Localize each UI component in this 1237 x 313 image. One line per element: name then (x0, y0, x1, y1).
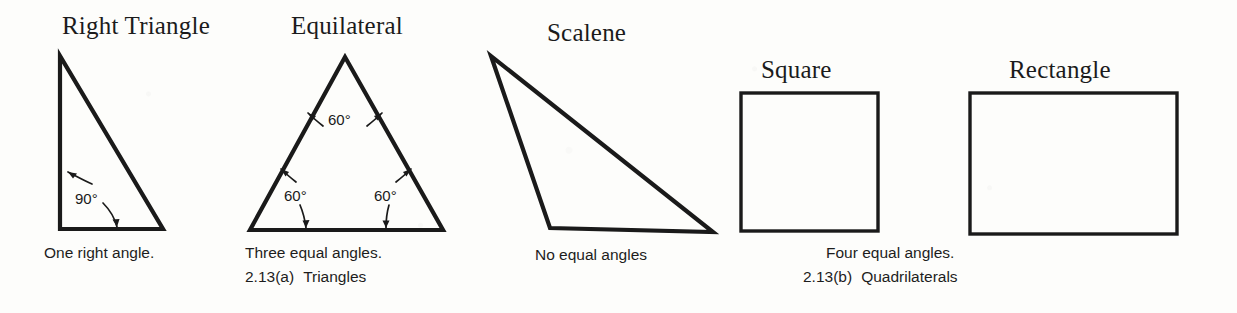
angle-label-right-90: 90° (75, 190, 98, 207)
caption-quadrilaterals-angles: Four equal angles. (826, 244, 954, 262)
equilateral-left-leader-base (300, 205, 310, 228)
figure-caption-triangles-number: 2.13(a) (245, 268, 294, 285)
caption-right-triangle: One right angle. (44, 244, 154, 262)
geometry-figure-page: Right Triangle Equilateral Scalene Squar… (0, 0, 1237, 313)
figure-caption-quadrilaterals-number: 2.13(b) (803, 268, 852, 285)
rectangle-outline (970, 93, 1177, 234)
figure-caption-triangles: 2.13(a)Triangles (245, 268, 366, 286)
equilateral-triangle-shape (250, 57, 443, 230)
scalene-triangle-outline (491, 56, 713, 232)
equilateral-triangle-outline (250, 57, 443, 230)
caption-scalene: No equal angles (535, 246, 647, 264)
angle-label-equilateral-right: 60° (374, 187, 397, 204)
square-outline (741, 93, 878, 231)
figure-caption-quadrilaterals-label: Quadrilaterals (861, 268, 958, 285)
right-angle-leader-vertical (68, 172, 92, 184)
heading-right-triangle: Right Triangle (62, 12, 210, 40)
square-shape (741, 93, 878, 231)
equilateral-left-leader-side (281, 169, 296, 182)
equilateral-right-leader-side (396, 169, 411, 182)
heading-equilateral: Equilateral (291, 12, 403, 40)
right-angle-leader-horizontal (103, 203, 120, 227)
angle-label-equilateral-left: 60° (284, 187, 307, 204)
heading-square: Square (761, 56, 832, 84)
equilateral-right-leader-base (383, 205, 390, 228)
scalene-triangle-shape (491, 56, 713, 232)
heading-rectangle: Rectangle (1009, 56, 1111, 84)
caption-equilateral: Three equal angles. (245, 244, 382, 262)
figure-caption-triangles-label: Triangles (303, 268, 366, 285)
rectangle-shape (970, 93, 1177, 234)
angle-label-equilateral-top: 60° (328, 111, 351, 128)
heading-scalene: Scalene (547, 19, 626, 47)
figure-caption-quadrilaterals: 2.13(b)Quadrilaterals (803, 268, 958, 286)
